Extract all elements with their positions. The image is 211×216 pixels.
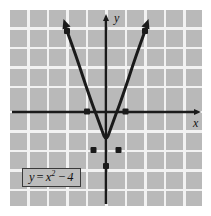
graph-figure: y x y=x2−4 xyxy=(0,0,211,216)
equation-exponent: 2 xyxy=(51,169,55,178)
equation-lhs: y xyxy=(29,170,35,184)
equation-minus: − xyxy=(58,170,65,184)
equation-label: y=x2−4 xyxy=(22,168,81,187)
x-axis-label: x xyxy=(193,117,198,129)
y-axis-label: y xyxy=(114,12,119,24)
equation-equals: = xyxy=(37,170,44,184)
equation-constant: 4 xyxy=(67,170,73,184)
